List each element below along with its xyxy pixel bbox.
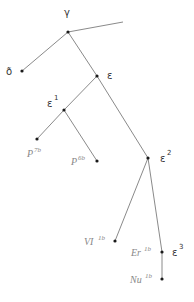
label-gamma: γ (64, 7, 70, 18)
label-epsilon1: ε (47, 98, 52, 109)
node-delta (20, 69, 23, 72)
edge-epsilon2-vi1b (115, 158, 148, 241)
label-delta: ð (6, 66, 12, 77)
label-vi1b-sup: 1b (98, 234, 106, 242)
label-epsilon2: ε (160, 153, 165, 164)
node-nu1b (160, 277, 163, 280)
label-epsilon3-sup: 3 (179, 243, 183, 251)
node-vi1b (113, 239, 116, 242)
label-vi1b: VI (84, 236, 94, 247)
edge-epsilon1-p7b (37, 110, 64, 139)
edge-gamma-epsilon (68, 32, 97, 76)
label-epsilon2-sup: 2 (167, 149, 171, 157)
node-epsilon (95, 74, 98, 77)
label-p6b-sup: 6b (78, 154, 86, 162)
node-epsilon1 (62, 108, 65, 111)
label-epsilon: ε (107, 70, 112, 81)
label-epsilon3: ε (172, 247, 177, 258)
node-er1b (160, 250, 163, 253)
edge-epsilon-epsilon1 (64, 76, 97, 110)
edge-epsilon2-er1b (148, 158, 162, 252)
edge-gamma-open-right (68, 22, 123, 32)
label-p7b: P (26, 148, 33, 159)
node-epsilon2 (146, 156, 149, 159)
label-nu1b: Nu (129, 274, 142, 285)
edge-epsilon-epsilon2 (97, 76, 148, 158)
label-p7b-sup: 7b (34, 146, 42, 154)
node-gamma (66, 30, 69, 33)
label-epsilon1-sup: 1 (54, 94, 58, 102)
label-er1b-sup: 1b (144, 245, 152, 253)
node-p6b (95, 159, 98, 162)
label-er1b: Er (130, 247, 141, 258)
label-p6b: P (70, 156, 77, 167)
tree-diagram: γ ð ε ε 1 P 7b P 6b ε 2 VI 1b Er 1b ε 3 … (0, 0, 194, 302)
label-nu1b-sup: 1b (145, 272, 153, 280)
node-p7b (35, 137, 38, 140)
edge-gamma-delta (22, 32, 68, 71)
